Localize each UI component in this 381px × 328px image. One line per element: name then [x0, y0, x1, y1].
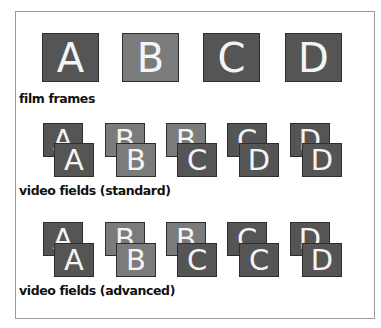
film-frame-a: A	[42, 33, 99, 82]
advanced-fields-label: video fields (advanced)	[19, 283, 175, 298]
standard-field-front-2: B	[116, 143, 156, 177]
field-letter: C	[249, 243, 269, 277]
advanced-field-front-1: A	[54, 243, 94, 277]
frame-letter: B	[137, 35, 164, 81]
film-frame-c: C	[203, 33, 260, 82]
field-letter: B	[126, 143, 146, 177]
field-letter: D	[248, 143, 270, 177]
standard-field-front-4: D	[239, 143, 279, 177]
advanced-field-front-2: B	[116, 243, 156, 277]
standard-field-front-1: A	[54, 143, 94, 177]
frame-letter: C	[218, 35, 246, 81]
frame-letter: D	[298, 35, 329, 81]
frame-letter: A	[57, 35, 84, 81]
field-letter: C	[187, 143, 207, 177]
field-letter: C	[187, 243, 207, 277]
advanced-field-front-4: C	[239, 243, 279, 277]
film-frame-d: D	[285, 33, 342, 82]
standard-field-front-5: D	[302, 143, 342, 177]
field-letter: A	[64, 143, 84, 177]
standard-fields-label: video fields (standard)	[19, 183, 171, 198]
film-frames-label: film frames	[19, 91, 95, 106]
field-letter: B	[126, 243, 146, 277]
standard-field-front-3: C	[177, 143, 217, 177]
field-letter: D	[311, 243, 333, 277]
field-letter: A	[64, 243, 84, 277]
advanced-field-front-3: C	[177, 243, 217, 277]
advanced-field-front-5: D	[302, 243, 342, 277]
film-frame-b: B	[122, 33, 179, 82]
field-letter: D	[311, 143, 333, 177]
